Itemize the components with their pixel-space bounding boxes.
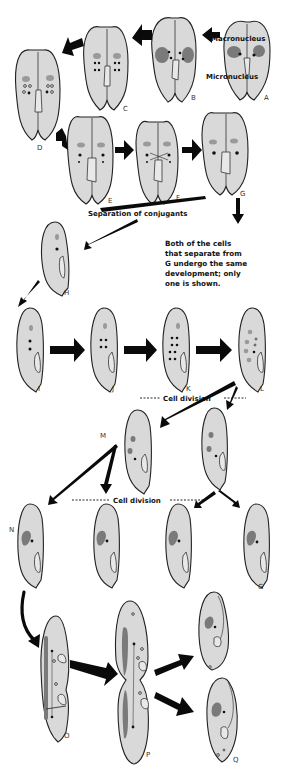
- stage-n-cell-2: [94, 504, 120, 588]
- stage-letter-i: I: [38, 385, 40, 393]
- stage-letter-d: D: [37, 144, 42, 152]
- arrow-mr-to-n4: [218, 490, 240, 508]
- stage-letter-q: Q: [233, 756, 239, 764]
- arrow-mr-to-n3: [194, 491, 216, 508]
- stage-letter-e: E: [108, 197, 112, 205]
- note-line-1: Both of the cells: [165, 239, 231, 248]
- arrow-d-to-e: [56, 128, 68, 150]
- stage-letter-l: L: [260, 385, 264, 393]
- stage-letter-k: K: [186, 385, 191, 393]
- stage-letter-j: J: [111, 385, 114, 393]
- stage-b-conjugating-pair: B: [152, 18, 196, 102]
- stage-letter-b: B: [191, 94, 196, 102]
- arrow-h-to-i: [18, 280, 40, 307]
- stage-letter-c: C: [123, 105, 128, 113]
- arrow-g-to-h: [84, 219, 138, 250]
- stage-h-exconjugant: H: [42, 222, 70, 297]
- stage-letter-g: G: [240, 190, 245, 198]
- stage-k-cell: K: [163, 308, 191, 393]
- arrow-f-to-g: [182, 139, 202, 161]
- stage-letter-m: M: [100, 432, 106, 440]
- macronucleus-left: [227, 46, 241, 58]
- stage-q-daughter-lower: Q: [207, 678, 239, 764]
- arrow-c-to-d: [62, 37, 84, 56]
- stage-letter-h: H: [64, 289, 69, 297]
- stage-n-cell-1: N: [9, 504, 43, 588]
- stage-m-cell-right: [202, 408, 228, 490]
- note-line-2: that separate from: [165, 249, 242, 258]
- note-line-3: G undergo the same: [165, 259, 247, 268]
- arrow-e-to-f: [115, 140, 134, 160]
- stage-p-dividing-cell: P: [116, 601, 151, 764]
- stage-e-conjugating-pair: E: [68, 117, 114, 205]
- stage-i-cell: I: [17, 308, 44, 393]
- note-line-5: one is shown.: [165, 279, 221, 288]
- stage-j-cell: J: [91, 308, 118, 393]
- stage-letter-a: A: [264, 94, 269, 102]
- arrow-n-to-o-curve: [22, 592, 34, 640]
- stage-a-conjugating-pair: A: [224, 21, 270, 102]
- arrow-p-to-q2: [154, 692, 194, 716]
- separation-label: Separation of conjugants: [88, 210, 188, 218]
- stage-q-daughter-upper: [199, 592, 229, 670]
- arrow-g-down: [232, 198, 244, 224]
- stage-letter-n: N: [9, 526, 14, 534]
- arrow-k-to-l: [196, 338, 232, 362]
- arrow-i-to-j: [50, 338, 85, 362]
- stage-g-conjugating-pair: G: [202, 113, 248, 198]
- macronucleus-label: Macronucleus: [211, 35, 266, 43]
- stage-n-cell-4: G: [244, 504, 270, 591]
- stage-n-cell-3: [166, 504, 192, 588]
- stage-l-cell: L: [239, 308, 266, 393]
- stage-c-conjugating-pair: C: [84, 27, 128, 113]
- explanatory-note: Both of the cells that separate from G u…: [165, 239, 247, 288]
- arrow-p-to-q1: [154, 654, 194, 676]
- arrow-b-to-c: [132, 24, 152, 46]
- note-line-4: development; only: [165, 269, 241, 278]
- stage-f-conjugating-pair: F: [136, 121, 180, 204]
- stage-letter-n4: G: [258, 583, 263, 591]
- stage-d-conjugating-pair: D: [16, 50, 60, 152]
- stage-letter-o: O: [64, 732, 70, 740]
- arrow-j-to-k: [124, 338, 157, 362]
- paramecium-conjugation-diagram: A B C D: [0, 0, 282, 770]
- stage-letter-p: P: [146, 751, 150, 759]
- cell-division-2-label: Cell division: [113, 497, 161, 505]
- stage-o-cell: O: [41, 616, 70, 742]
- arrow-o-to-p: [70, 660, 118, 686]
- micronucleus-label: Micronucleus: [206, 73, 258, 81]
